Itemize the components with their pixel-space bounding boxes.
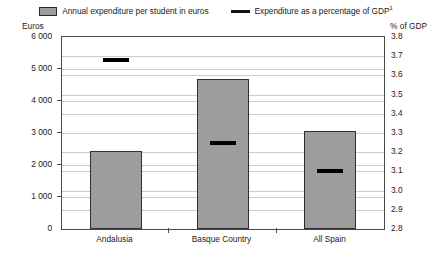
left-axis-caption: Euros	[22, 21, 44, 31]
left-tick-mark	[57, 100, 61, 101]
legend-label-gdp-percentage: Expenditure as a percentage of GDP1	[255, 6, 393, 16]
right-tick-label: 3.0	[391, 185, 425, 195]
legend-footnote-marker: 1	[389, 5, 392, 11]
left-tick-mark	[57, 164, 61, 165]
left-tick-label: 0	[12, 223, 52, 233]
left-tick-label: 5 000	[12, 63, 52, 73]
left-tick-label: 6 000	[12, 31, 52, 41]
gridline	[62, 69, 384, 70]
left-tick-label: 1 000	[12, 191, 52, 201]
bar-all-spain	[304, 131, 356, 229]
right-tick-label: 3.6	[391, 69, 425, 79]
left-tick-label: 2 000	[12, 159, 52, 169]
category-separator	[168, 228, 169, 233]
gridline	[62, 75, 384, 76]
right-tick-label: 3.1	[391, 165, 425, 175]
category-label-basque-country: Basque Country	[168, 234, 275, 244]
right-tick-label: 3.8	[391, 31, 425, 41]
plot-area	[61, 36, 385, 230]
left-tick-mark	[57, 68, 61, 69]
bar-swatch-icon	[39, 7, 57, 16]
category-label-all-spain: All Spain	[276, 234, 383, 244]
right-tick-label: 2.8	[391, 223, 425, 233]
line-swatch-icon	[231, 10, 250, 13]
gridline	[62, 56, 384, 57]
left-tick-label: 4 000	[12, 95, 52, 105]
right-axis-caption: % of GDP	[390, 21, 427, 31]
left-tick-mark	[57, 132, 61, 133]
left-tick-mark	[57, 196, 61, 197]
legend-entry-annual-expenditure: Annual expenditure per student in euros	[39, 6, 208, 16]
legend-label-gdp-percentage-text: Expenditure as a percentage of GDP	[255, 6, 390, 16]
legend-label-annual-expenditure: Annual expenditure per student in euros	[62, 6, 208, 16]
bar-andalusia	[90, 151, 142, 229]
gdp-marker-all-spain	[317, 169, 343, 173]
gdp-marker-basque-country	[210, 141, 236, 145]
expenditure-chart: Annual expenditure per student in euros …	[0, 0, 432, 258]
bar-basque-country	[197, 79, 249, 229]
right-tick-label: 3.7	[391, 50, 425, 60]
category-label-andalusia: Andalusia	[61, 234, 168, 244]
right-tick-label: 2.9	[391, 204, 425, 214]
chart-legend: Annual expenditure per student in euros …	[0, 3, 432, 19]
legend-entry-gdp-percentage: Expenditure as a percentage of GDP1	[231, 6, 393, 16]
right-tick-label: 3.5	[391, 89, 425, 99]
category-separator	[276, 228, 277, 233]
left-tick-label: 3 000	[12, 127, 52, 137]
right-tick-label: 3.4	[391, 108, 425, 118]
right-tick-label: 3.2	[391, 146, 425, 156]
gdp-marker-andalusia	[103, 58, 129, 62]
right-tick-label: 3.3	[391, 127, 425, 137]
